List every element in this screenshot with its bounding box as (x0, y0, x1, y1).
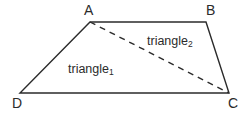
region-label-triangle-2: triangle2 (147, 35, 193, 48)
region-label-triangle-2-text: triangle (147, 34, 188, 48)
vertex-label-b: B (206, 3, 216, 17)
region-label-triangle-2-subscript: 2 (188, 39, 193, 49)
region-label-triangle-1: triangle1 (68, 63, 114, 76)
region-label-triangle-1-subscript: 1 (109, 67, 114, 77)
vertex-label-c: C (228, 96, 238, 110)
region-label-triangle-1-text: triangle (68, 62, 109, 76)
vertex-label-d: D (12, 96, 22, 110)
vertex-label-a: A (84, 3, 94, 17)
trapezoid-figure: A B C D triangle1 triangle2 (0, 0, 249, 118)
